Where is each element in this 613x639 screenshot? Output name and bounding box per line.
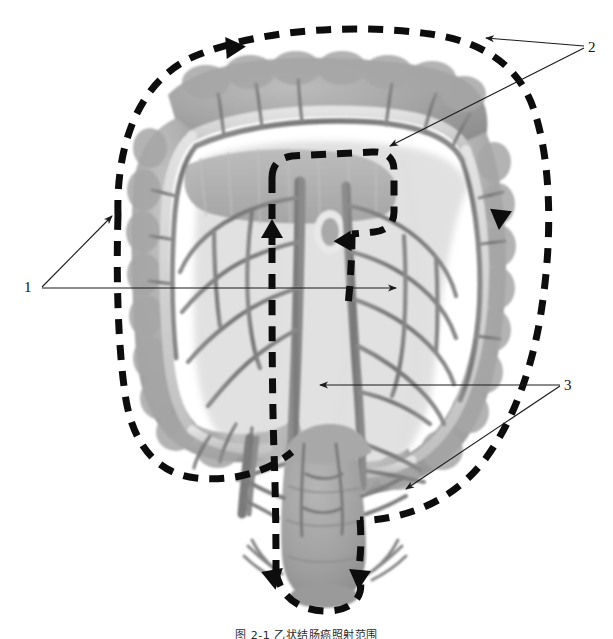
figure-root: 1 2 3 图 2-1 乙状结肠癌照射范围 (0, 0, 613, 639)
leader-2-upper (486, 38, 584, 46)
leader-1-upper (42, 216, 112, 287)
callout-label-3: 3 (564, 378, 572, 393)
anal-margin (290, 584, 358, 608)
callout-label-1: 1 (24, 280, 32, 295)
callout-label-2: 2 (588, 40, 596, 55)
anatomy-illustration (0, 0, 613, 639)
figure-caption: 图 2-1 乙状结肠癌照射范围 (0, 626, 613, 639)
right-lateral-ligament (368, 540, 406, 580)
arrow-rectum-left-down (261, 568, 286, 592)
